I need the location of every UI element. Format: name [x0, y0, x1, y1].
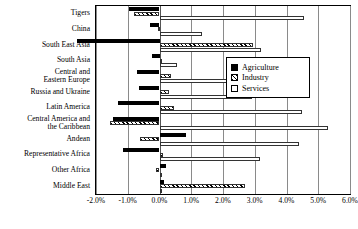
x-tick-label: 4.0%	[279, 196, 295, 206]
x-axis-tick-labels: -2.0%-1.0%0.0%1.0%2.0%3.0%4.0%5.0%6.0%	[95, 196, 351, 210]
gridline	[350, 6, 351, 194]
bar-services	[160, 157, 260, 161]
bar-agriculture	[160, 164, 166, 168]
hatched-swatch-icon	[231, 74, 238, 81]
category-label: Middle East	[0, 182, 90, 190]
x-tick-label: 5.0%	[310, 196, 326, 206]
bar-agriculture	[160, 133, 187, 137]
category-label-line: Tigers	[0, 9, 90, 17]
bar-industry	[160, 184, 246, 188]
legend-label-industry: Industry	[242, 73, 269, 82]
solid-black-swatch-icon	[231, 64, 238, 71]
category-label-line: Andean	[0, 135, 90, 143]
chart-row	[96, 22, 350, 38]
bar-industry	[156, 168, 159, 172]
bar-industry	[134, 12, 159, 16]
chart-row	[96, 131, 350, 147]
x-tick-label: -2.0%	[87, 196, 105, 206]
legend-label-agriculture: Agriculture	[242, 63, 279, 72]
category-label-line: Middle East	[0, 182, 90, 190]
bar-services	[160, 142, 300, 146]
x-tick-label: 6.0%	[342, 196, 358, 206]
bar-industry	[160, 43, 254, 47]
bar-services	[160, 32, 203, 36]
category-label: Central America andthe Caribbean	[0, 115, 90, 131]
bar-industry	[158, 27, 160, 31]
chart-row	[96, 178, 350, 194]
category-label-line: Representative Africa	[0, 150, 90, 158]
chart-row	[96, 84, 350, 100]
x-tick-label: 0.0%	[152, 196, 168, 206]
category-label-line: Russia and Ukraine	[0, 88, 90, 96]
category-label: Representative Africa	[0, 150, 90, 158]
chart-row	[96, 37, 350, 53]
bar-agriculture	[129, 7, 159, 11]
bar-services	[160, 110, 303, 114]
legend-item-services: Services	[231, 84, 305, 93]
chart-legend: Agriculture Industry Services	[226, 57, 310, 98]
x-tick-label: 2.0%	[215, 196, 231, 206]
category-label: South Asia	[0, 56, 90, 64]
bar-services	[160, 63, 177, 67]
category-label: Andean	[0, 135, 90, 143]
x-tick-label: 3.0%	[247, 196, 263, 206]
category-label: Russia and Ukraine	[0, 88, 90, 96]
bar-industry	[160, 106, 174, 110]
category-label-line: Other Africa	[0, 166, 90, 174]
legend-label-services: Services	[242, 84, 269, 93]
legend-item-agriculture: Agriculture	[231, 63, 305, 72]
chart-row	[96, 100, 350, 116]
legend-item-industry: Industry	[231, 73, 305, 82]
bar-industry	[110, 121, 159, 125]
bar-services	[160, 126, 328, 130]
bar-agriculture	[150, 23, 160, 27]
plot-area	[95, 5, 351, 195]
bar-industry	[160, 74, 171, 78]
bar-services	[160, 189, 162, 193]
category-label: Tigers	[0, 9, 90, 17]
category-label: Latin America	[0, 103, 90, 111]
chart-row	[96, 116, 350, 132]
bar-services	[160, 16, 304, 20]
bar-agriculture	[123, 148, 160, 152]
chart-row	[96, 69, 350, 85]
bar-industry	[160, 59, 162, 63]
bar-agriculture	[139, 86, 160, 90]
category-label: China	[0, 25, 90, 33]
bar-services	[160, 173, 162, 177]
bar-agriculture	[160, 180, 165, 184]
category-label-line: China	[0, 25, 90, 33]
category-label-line: Latin America	[0, 103, 90, 111]
bar-agriculture	[152, 54, 160, 58]
bar-agriculture	[77, 39, 160, 43]
bar-agriculture	[118, 101, 159, 105]
bar-agriculture	[113, 117, 159, 121]
bar-agriculture	[137, 70, 159, 74]
white-swatch-icon	[231, 85, 238, 92]
category-label-line: Eastern Europe	[0, 76, 90, 84]
chart-row	[96, 163, 350, 179]
x-tick-label: 1.0%	[183, 196, 199, 206]
x-tick-label: -1.0%	[119, 196, 137, 206]
bar-industry	[160, 153, 163, 157]
bar-industry	[140, 137, 159, 141]
chart-row	[96, 53, 350, 69]
bar-industry	[160, 90, 170, 94]
chart-row	[96, 6, 350, 22]
category-axis-labels: TigersChinaSouth East AsiaSouth AsiaCent…	[0, 5, 90, 195]
category-label: Other Africa	[0, 166, 90, 174]
category-label-line: the Caribbean	[0, 123, 90, 131]
category-label-line: South Asia	[0, 56, 90, 64]
category-label: Central andEastern Europe	[0, 68, 90, 84]
bar-services	[160, 48, 262, 52]
chart-row	[96, 147, 350, 163]
